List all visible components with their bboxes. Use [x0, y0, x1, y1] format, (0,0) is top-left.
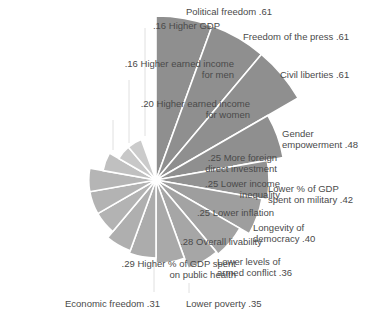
label-gender-empowerment: Genderempowerment .48 — [282, 128, 358, 150]
label-lower-poverty: Lower poverty .35 — [186, 298, 262, 309]
label-higher-earned-income-for-men: .16 Higher earned incomefor men — [125, 58, 234, 80]
label-overall-livability: .28 Overall livability — [180, 236, 262, 247]
label-political-freedom: Political freedom .61 — [186, 6, 272, 17]
label-civil-liberties: Civil liberties .61 — [280, 69, 349, 80]
label-freedom-of-the-press: Freedom of the press .61 — [243, 31, 349, 42]
label-lower-of-gdp-spent-on-military: Lower % of GDPspent on military .42 — [268, 183, 353, 205]
label-higher-earned-income-for-women: .20 Higher earned incomefor women — [141, 98, 250, 120]
label-economic-freedom: Economic freedom .31 — [65, 298, 160, 309]
label-more-foreign-direct-investment: .25 More foreigndirect investment — [205, 152, 277, 174]
label-longevity-of-democracy: Longevity ofdemocracy .40 — [253, 222, 315, 244]
label-higher-gdp: .16 Higher GDP — [153, 20, 220, 31]
label-lower-inflation: .25 Lower inflation — [197, 207, 274, 218]
label-lower-income-inequality: .25 Lower incomeinequality — [205, 178, 280, 200]
label-higher-of-gdp-spent-on-public-health: .29 Higher % of GDP spenton public healt… — [122, 258, 236, 280]
